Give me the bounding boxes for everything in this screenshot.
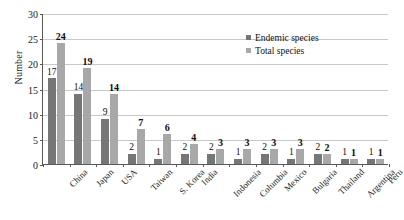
bar-group: 24 bbox=[176, 14, 203, 164]
bar-total: 3 bbox=[243, 149, 251, 164]
y-axis-title: Number bbox=[13, 28, 24, 108]
bar-group: 16 bbox=[149, 14, 176, 164]
bar-total: 19 bbox=[83, 68, 91, 164]
bar-value-label: 3 bbox=[218, 138, 223, 149]
bar-total: 3 bbox=[216, 149, 224, 164]
bar-endemic: 2 bbox=[314, 154, 322, 164]
legend-swatch-endemic-icon bbox=[246, 35, 251, 40]
bar-value-label: 2 bbox=[262, 143, 267, 154]
bar-endemic: 2 bbox=[207, 154, 215, 164]
bar-group: 1419 bbox=[70, 14, 97, 164]
chart-legend: Endemic species Total species bbox=[246, 31, 319, 57]
x-axis-label: Bulgaria bbox=[310, 167, 339, 196]
bar-endemic: 2 bbox=[261, 154, 269, 164]
bar-value-label: 1 bbox=[156, 148, 161, 159]
bar-group: 11 bbox=[336, 14, 363, 164]
bar-value-label: 3 bbox=[245, 138, 250, 149]
bar-total: 1 bbox=[376, 159, 384, 164]
bar-group: 11 bbox=[362, 14, 389, 164]
bar-endemic: 14 bbox=[74, 94, 82, 164]
x-axis-label: Japan bbox=[94, 167, 116, 189]
bar-total: 4 bbox=[190, 144, 198, 164]
bar-total: 3 bbox=[270, 149, 278, 164]
bar-value-label: 3 bbox=[271, 138, 276, 149]
bar-total: 6 bbox=[163, 134, 171, 164]
bar-endemic: 1 bbox=[154, 159, 162, 164]
bar-group: 23 bbox=[203, 14, 230, 164]
bar-value-label: 2 bbox=[182, 143, 187, 154]
bar-endemic: 1 bbox=[341, 159, 349, 164]
bar-endemic: 9 bbox=[101, 119, 109, 164]
x-axis-label: USA bbox=[120, 167, 140, 187]
bar-value-label: 19 bbox=[82, 57, 92, 68]
bar-value-label: 1 bbox=[378, 148, 383, 159]
bar-value-label: 1 bbox=[342, 148, 347, 159]
bar-total: 7 bbox=[137, 129, 145, 164]
legend-item-endemic: Endemic species bbox=[246, 31, 319, 44]
bar-group: 914 bbox=[96, 14, 123, 164]
legend-item-total: Total species bbox=[246, 44, 319, 57]
bar-value-label: 1 bbox=[369, 148, 374, 159]
legend-swatch-total-icon bbox=[246, 48, 251, 53]
bar-value-label: 24 bbox=[56, 32, 66, 43]
x-axis-labels: ChinaJapanUSATaiwanS. KoreaIndiaIndonesi… bbox=[42, 167, 388, 220]
bar-group: 1724 bbox=[43, 14, 70, 164]
bar-endemic: 1 bbox=[287, 159, 295, 164]
bar-value-label: 1 bbox=[289, 148, 294, 159]
bar-value-label: 2 bbox=[316, 143, 321, 154]
bar-value-label: 2 bbox=[129, 143, 134, 154]
x-axis-label: Indonesia bbox=[231, 167, 263, 199]
bar-value-label: 9 bbox=[103, 108, 108, 119]
bar-value-label: 2 bbox=[209, 143, 214, 154]
legend-label-endemic: Endemic species bbox=[255, 33, 319, 43]
bar-total: 2 bbox=[323, 154, 331, 164]
bar-total: 1 bbox=[350, 159, 358, 164]
bar-series-container: 1724141991427162423132313221111 bbox=[43, 14, 388, 164]
bar-value-label: 1 bbox=[351, 148, 356, 159]
bar-group: 27 bbox=[123, 14, 150, 164]
x-axis-label: Taiwan bbox=[149, 167, 175, 193]
bar-endemic: 2 bbox=[181, 154, 189, 164]
legend-label-total: Total species bbox=[255, 46, 304, 56]
bar-total: 24 bbox=[57, 43, 65, 164]
bar-value-label: 1 bbox=[236, 148, 241, 159]
bar-endemic: 17 bbox=[48, 78, 56, 164]
plot-area: 051015202530 172414199142716242313231322… bbox=[42, 14, 388, 165]
bar-value-label: 17 bbox=[47, 68, 57, 79]
bar-value-label: 14 bbox=[109, 83, 119, 94]
bar-endemic: 2 bbox=[128, 154, 136, 164]
bar-value-label: 3 bbox=[298, 138, 303, 149]
bar-total: 3 bbox=[296, 149, 304, 164]
bar-value-label: 4 bbox=[191, 133, 196, 144]
x-axis-label: Thailand bbox=[337, 167, 367, 197]
bar-value-label: 7 bbox=[138, 118, 143, 129]
bar-value-label: 14 bbox=[74, 83, 84, 94]
x-axis-label: China bbox=[67, 167, 89, 189]
bar-endemic: 1 bbox=[367, 159, 375, 164]
bar-value-label: 6 bbox=[165, 123, 170, 134]
bar-value-label: 2 bbox=[324, 143, 329, 154]
bar-endemic: 1 bbox=[234, 159, 242, 164]
bar-total: 14 bbox=[110, 94, 118, 164]
